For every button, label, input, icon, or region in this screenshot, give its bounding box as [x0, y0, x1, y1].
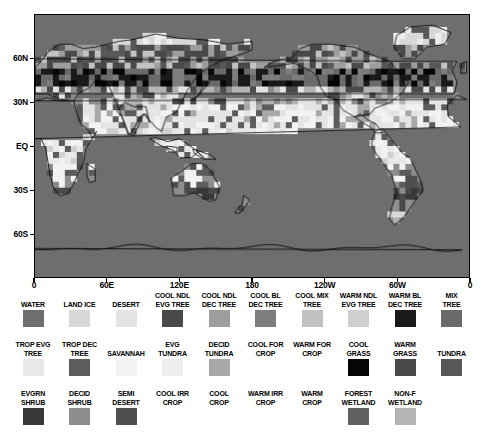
- legend-color-swatch: [255, 310, 276, 327]
- map-plot-area: [34, 14, 470, 278]
- legend-color-swatch: [302, 310, 323, 327]
- legend-color-swatch: [209, 359, 230, 376]
- legend-item-label: TUNDRA: [425, 341, 479, 358]
- legend-color-swatch: [69, 310, 90, 327]
- legend-color-swatch: [162, 310, 183, 327]
- legend-color-swatch: [23, 310, 44, 327]
- longitude-tick-mark: [179, 278, 181, 282]
- latitude-tick-mark: [30, 58, 34, 60]
- longitude-tick-mark: [397, 278, 399, 282]
- legend-color-swatch: [441, 359, 462, 376]
- longitude-tick-mark: [469, 278, 471, 282]
- legend-color-swatch: [116, 310, 137, 327]
- latitude-tick-mark: [30, 234, 34, 236]
- longitude-tick-mark: [324, 278, 326, 282]
- latitude-tick-label: 30N: [0, 97, 28, 107]
- latitude-tick-label: 60N: [0, 53, 28, 63]
- legend-item[interactable]: [425, 390, 479, 417]
- legend-item-label: MIX TREE: [425, 292, 479, 309]
- legend-color-swatch: [69, 359, 90, 376]
- legend-color-swatch: [395, 359, 416, 376]
- legend-item-label: [425, 390, 479, 399]
- legend-color-swatch: [23, 359, 44, 376]
- longitude-tick-mark: [106, 278, 108, 282]
- legend-color-swatch: [162, 359, 183, 376]
- land-cover-raster: [35, 15, 469, 277]
- latitude-tick-label: 60S: [0, 229, 28, 239]
- legend-color-swatch: [395, 310, 416, 327]
- longitude-tick-mark: [33, 278, 35, 282]
- legend-color-swatch: [441, 310, 462, 327]
- legend-color-swatch: [348, 310, 369, 327]
- latitude-tick-mark: [30, 146, 34, 148]
- legend-color-swatch: [23, 408, 44, 425]
- legend-color-swatch: [395, 408, 416, 425]
- longitude-tick-mark: [251, 278, 253, 282]
- legend-color-swatch: [116, 359, 137, 376]
- legend-color-swatch: [348, 359, 369, 376]
- latitude-tick-mark: [30, 190, 34, 192]
- map-panel: 60N30NEQ30S60S 060E120E180120W60W0: [0, 0, 488, 290]
- legend-color-swatch: [348, 408, 369, 425]
- legend-item[interactable]: MIX TREE: [425, 292, 479, 327]
- legend-color-swatch: [116, 408, 137, 425]
- legend-color-swatch: [69, 408, 90, 425]
- legend-color-swatch: [209, 310, 230, 327]
- latitude-tick-label: 30S: [0, 185, 28, 195]
- figure-root: 60N30NEQ30S60S 060E120E180120W60W0 WATER…: [0, 0, 488, 448]
- latitude-tick-mark: [30, 102, 34, 104]
- latitude-tick-label: EQ: [0, 141, 28, 151]
- legend-panel: WATERLAND ICEDESERTCOOL NDL EVG TREECOOL…: [0, 292, 488, 448]
- legend-item[interactable]: TUNDRA: [425, 341, 479, 376]
